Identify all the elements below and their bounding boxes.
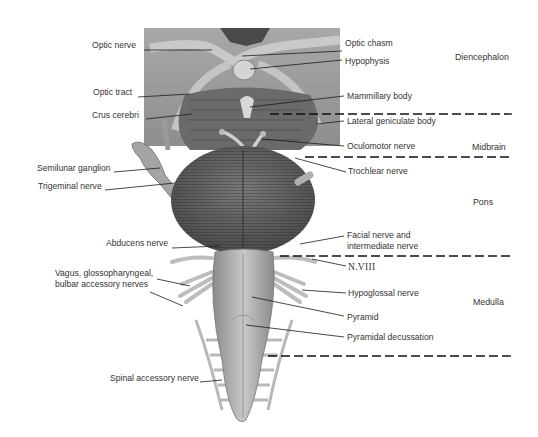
label-facial-nerve-line2: intermediate nerve [347,241,418,251]
label-mammillary-body: Mammillary body [347,91,412,101]
label-semilunar-ganglion: Semilunar ganglion [37,163,111,173]
label-facial-nerve-line1: Facial nerve and [347,230,411,240]
label-lateral-geniculate-body: Lateral geniculate body [347,116,436,126]
region-midbrain: Midbrain [472,142,506,152]
region-pons: Pons [473,197,493,207]
label-pyramid: Pyramid [347,312,379,322]
label-n-viii: N.VIII [348,262,375,272]
label-abducens-nerve: Abducens nerve [106,238,168,248]
label-optic-tract: Optic tract [93,87,132,97]
label-optic-chasm: Optic chasm [345,38,393,48]
region-diencephalon: Diencephalon [455,52,509,62]
label-vagus-line1: Vagus, glossopharyngeal, [55,268,153,278]
label-pyramidal-decussation: Pyramidal decussation [347,332,433,342]
label-hypophysis: Hypophysis [345,56,389,66]
brainstem-illustration [0,0,538,437]
label-oculomotor-nerve: Oculomotor nerve [347,141,415,151]
label-crus-cerebri: Crus cerebri [92,110,139,120]
label-hypoglossal-nerve: Hypoglossal nerve [348,288,419,298]
label-trochlear-nerve: Trochlear nerve [348,166,408,176]
label-spinal-accessory-nerve: Spinal accessory nerve [110,373,199,383]
region-medulla: Medulla [473,297,504,307]
label-trigeminal-nerve: Trigeminal nerve [38,181,102,191]
label-optic-nerve: Optic nerve [92,40,136,50]
label-vagus-line2: bulbar accessory nerves [55,279,148,289]
brainstem-diagram: Optic nerve Optic tract Crus cerebri Sem… [0,0,538,437]
